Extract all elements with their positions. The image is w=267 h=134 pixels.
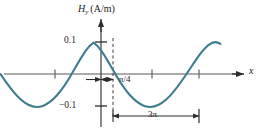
y-tick-label-negative: −0.1 (59, 101, 76, 111)
x-axis-label: x (249, 66, 253, 76)
y-axis-label: Hy(A/m) (78, 4, 115, 16)
plot-canvas (0, 0, 267, 134)
y-axis-label-subscript: y (85, 8, 88, 16)
y-tick-label-positive: 0.1 (64, 36, 76, 46)
annotation-label-quarter-pi: π/4 (119, 75, 131, 84)
annotation-label-three-pi: 3π (148, 110, 157, 119)
y-axis-label-units: (A/m) (90, 3, 114, 14)
waveform-figure: Hy(A/m) x 0.1 −0.1 π/4 3π (0, 0, 267, 134)
